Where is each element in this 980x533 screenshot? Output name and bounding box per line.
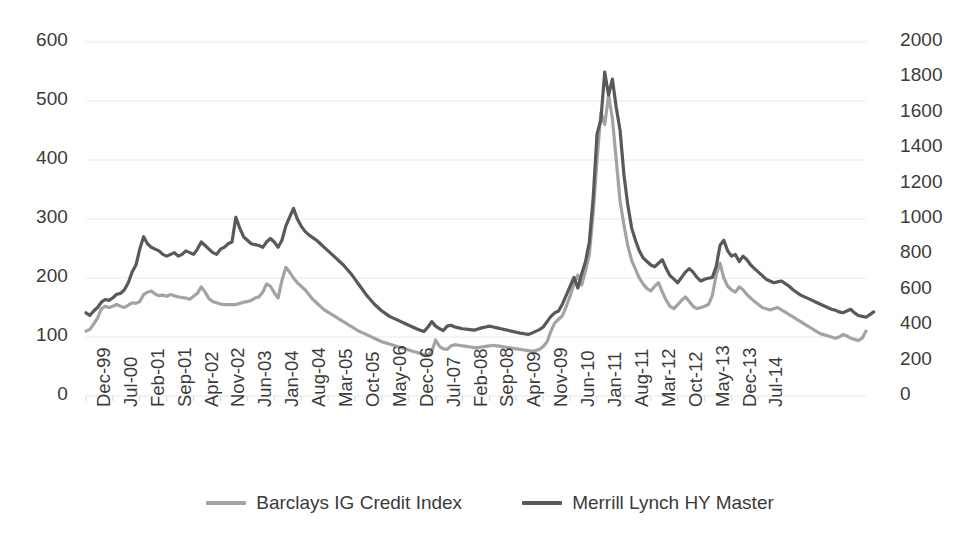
x-axis-tick-label: Apr-09 bbox=[523, 351, 545, 407]
y-axis-right-tick-label: 1800 bbox=[900, 64, 970, 86]
x-axis-tick-label: Mar-12 bbox=[658, 348, 680, 407]
series-line-barclays-ig-credit-index bbox=[86, 95, 866, 355]
y-axis-left-tick-label: 300 bbox=[8, 206, 68, 228]
x-axis-tick-label: Dec-99 bbox=[93, 347, 115, 407]
legend-item[interactable]: Barclays IG Credit Index bbox=[206, 492, 462, 514]
legend-color-swatch bbox=[206, 501, 246, 505]
y-axis-left-tick-label: 500 bbox=[8, 88, 68, 110]
x-axis-tick-label: Dec-13 bbox=[739, 347, 761, 407]
x-axis-tick-label: Aug-04 bbox=[308, 347, 330, 407]
x-axis-tick-label: May-06 bbox=[389, 345, 411, 407]
legend-item[interactable]: Merrill Lynch HY Master bbox=[522, 492, 774, 514]
y-axis-right-tick-label: 400 bbox=[900, 312, 970, 334]
x-axis-tick-label: Sep-01 bbox=[174, 347, 196, 407]
y-axis-left-tick-label: 100 bbox=[8, 324, 68, 346]
chart-plot-area bbox=[0, 0, 980, 533]
y-axis-left-tick-label: 400 bbox=[8, 147, 68, 169]
x-axis-tick-label: Oct-12 bbox=[685, 351, 707, 407]
y-axis-right-tick-label: 1000 bbox=[900, 206, 970, 228]
series-line-merrill-lynch-hy-master bbox=[86, 72, 874, 334]
x-axis-tick-label: Jan-11 bbox=[604, 352, 626, 407]
legend-label: Barclays IG Credit Index bbox=[256, 492, 462, 514]
y-axis-right-tick-label: 200 bbox=[900, 348, 970, 370]
x-axis-tick-label: Jul-14 bbox=[765, 357, 787, 407]
y-axis-right-tick-label: 0 bbox=[900, 383, 970, 405]
x-axis-tick-label: Apr-02 bbox=[201, 351, 223, 407]
x-axis-tick-label: Jan-04 bbox=[281, 350, 303, 407]
x-axis-tick-label: Aug-11 bbox=[631, 349, 653, 407]
y-axis-left-tick-label: 600 bbox=[8, 29, 68, 51]
x-axis-tick-label: Jul-07 bbox=[443, 357, 465, 407]
x-axis-tick-label: Nov-02 bbox=[227, 347, 249, 407]
y-axis-right-tick-label: 2000 bbox=[900, 29, 970, 51]
x-axis-tick-label: Nov-09 bbox=[550, 347, 572, 407]
chart-container: 6005004003002001000 20001800160014001200… bbox=[0, 0, 980, 533]
x-axis-tick-label: Sep-08 bbox=[496, 347, 518, 407]
y-axis-right-tick-label: 800 bbox=[900, 241, 970, 263]
x-axis-tick-label: Jun-03 bbox=[254, 350, 276, 407]
x-axis-tick-label: Jul-00 bbox=[120, 357, 142, 407]
x-axis-tick-label: Jun-10 bbox=[577, 350, 599, 407]
y-axis-right-tick-label: 1600 bbox=[900, 100, 970, 122]
x-axis-tick-label: Dec-06 bbox=[416, 347, 438, 407]
y-axis-right-tick-label: 1400 bbox=[900, 135, 970, 157]
x-axis-tick-label: May-13 bbox=[712, 345, 734, 407]
y-axis-left-tick-label: 0 bbox=[8, 383, 68, 405]
x-axis-tick-label: Feb-01 bbox=[147, 348, 169, 407]
y-axis-right-tick-label: 600 bbox=[900, 277, 970, 299]
y-axis-right-tick-label: 1200 bbox=[900, 171, 970, 193]
chart-legend: Barclays IG Credit IndexMerrill Lynch HY… bbox=[0, 492, 980, 514]
legend-color-swatch bbox=[522, 501, 562, 505]
x-axis-tick-label: Mar-05 bbox=[335, 348, 357, 407]
legend-label: Merrill Lynch HY Master bbox=[572, 492, 774, 514]
y-axis-left-tick-label: 200 bbox=[8, 265, 68, 287]
x-axis-tick-label: Oct-05 bbox=[362, 351, 384, 407]
x-axis-tick-label: Feb-08 bbox=[470, 348, 492, 407]
